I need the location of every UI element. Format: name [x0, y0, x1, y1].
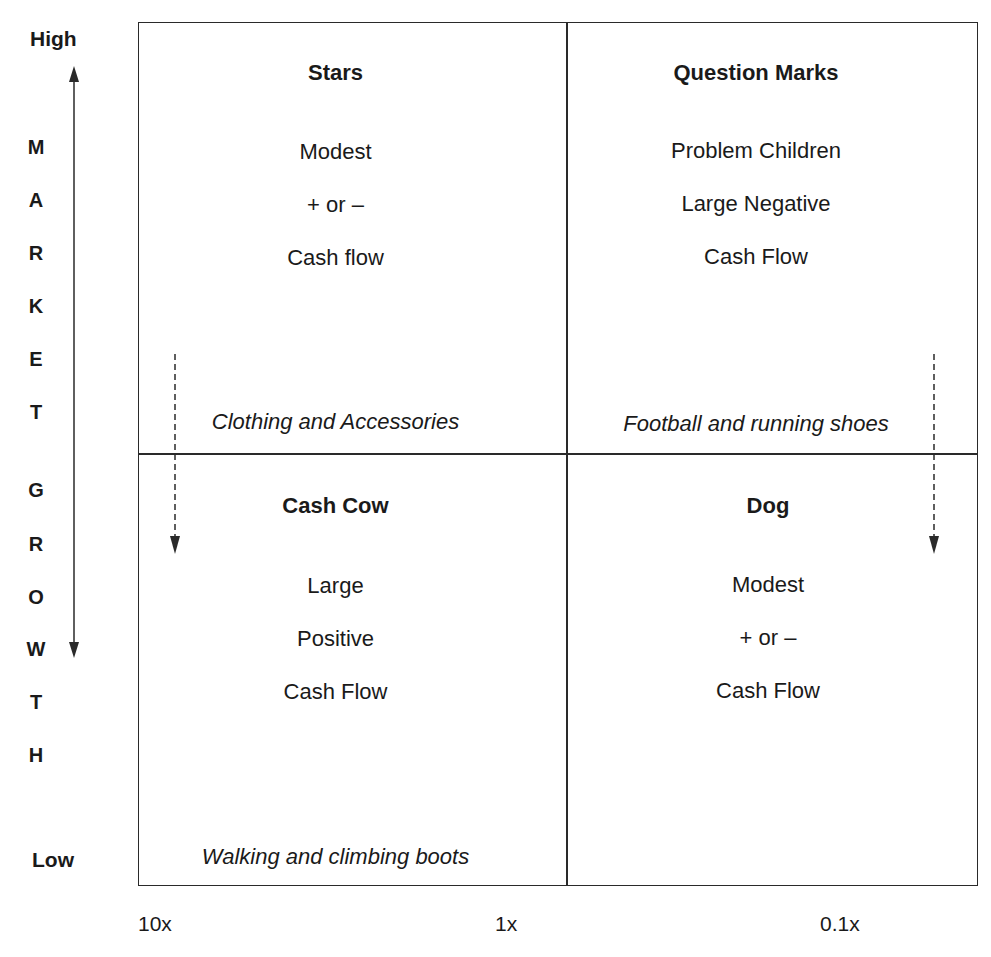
axis-letter: R — [21, 533, 51, 556]
quadrant-line: Cash flow — [138, 245, 533, 271]
dashed-arrow-down-icon — [924, 352, 944, 558]
axis-letter: M — [21, 136, 51, 159]
quadrant-line: Cash Flow — [566, 678, 970, 704]
quadrant-title: Question Marks — [566, 60, 946, 86]
x-tick-label: 1x — [495, 912, 517, 936]
quadrant-line: Cash Flow — [138, 679, 533, 705]
quadrant-title: Cash Cow — [138, 493, 533, 519]
quadrant-title: Stars — [138, 60, 533, 86]
axis-letter: O — [21, 586, 51, 609]
axis-letter: K — [21, 295, 51, 318]
quadrant-line: Positive — [138, 626, 533, 652]
quadrant-stars: Stars Modest + or – Cash flow Clothing a… — [138, 22, 533, 453]
axis-letter: R — [21, 242, 51, 265]
dashed-arrow-down-icon — [165, 352, 185, 558]
x-tick-label: 0.1x — [820, 912, 860, 936]
axis-letter: T — [21, 401, 51, 424]
quadrant-line: + or – — [138, 192, 533, 218]
y-axis-high-label: High — [30, 27, 77, 51]
axis-letter: E — [21, 348, 51, 371]
quadrant-line: Large — [138, 573, 533, 599]
quadrant-cash-cow: Cash Cow Large Positive Cash Flow Walkin… — [138, 454, 533, 886]
axis-letter: H — [21, 744, 51, 767]
quadrant-line: Large Negative — [566, 191, 946, 217]
quadrant-line: Problem Children — [566, 138, 946, 164]
axis-letter: A — [21, 189, 51, 212]
quadrant-example: Walking and climbing boots — [138, 844, 533, 870]
y-axis-low-label: Low — [32, 848, 74, 872]
quadrant-question-marks: Question Marks Problem Children Large Ne… — [566, 22, 946, 453]
double-arrow-icon — [64, 60, 84, 665]
x-tick-label: 10x — [138, 912, 172, 936]
quadrant-line: Cash Flow — [566, 244, 946, 270]
quadrant-title: Dog — [566, 493, 970, 519]
axis-letter: W — [21, 638, 51, 661]
quadrant-line: + or – — [566, 625, 970, 651]
axis-letter: T — [21, 691, 51, 714]
quadrant-example: Football and running shoes — [566, 411, 946, 437]
quadrant-example: Clothing and Accessories — [138, 409, 533, 435]
axis-letter: G — [21, 479, 51, 502]
quadrant-dog: Dog Modest + or – Cash Flow — [566, 454, 970, 886]
quadrant-line: Modest — [566, 572, 970, 598]
quadrant-line: Modest — [138, 139, 533, 165]
